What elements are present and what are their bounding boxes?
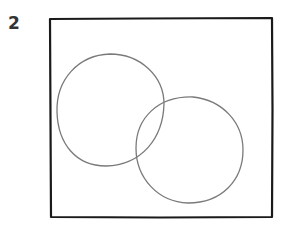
venn-drawing <box>0 0 286 225</box>
circle-right <box>136 97 243 203</box>
circle-left <box>57 54 164 166</box>
frame-rectangle <box>50 18 273 218</box>
venn-diagram-canvas: 2 <box>0 0 286 225</box>
